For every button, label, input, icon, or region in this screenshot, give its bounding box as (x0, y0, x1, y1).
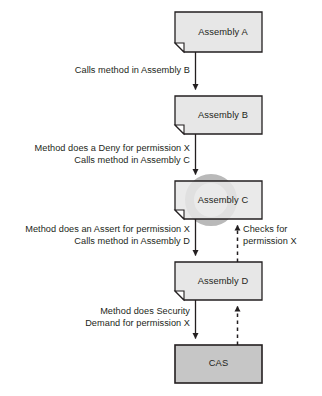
node-assembly-c (175, 181, 262, 219)
edge-label-d-to-c-check: Checks for permission X (243, 223, 321, 247)
edge-label-line: Method does a Deny for permission X (8, 142, 190, 154)
edge-label-line: permission X (243, 235, 321, 247)
edge-label-line: Calls method in Assembly C (8, 154, 190, 166)
edge-label-line: Method does Security (60, 305, 190, 317)
edge-label-line: Calls method in Assembly D (4, 235, 190, 247)
node-assembly-b (175, 96, 262, 134)
edge-label-line: Checks for (243, 223, 321, 235)
node-cas (175, 345, 262, 383)
edge-label-a-to-b: Calls method in Assembly B (10, 64, 190, 76)
node-assembly-d (175, 262, 262, 300)
edge-label-line: Calls method in Assembly B (10, 64, 190, 76)
node-assembly-a (175, 12, 262, 52)
security-stack-walk-diagram: Assembly A Assembly B Assembly C Assembl… (0, 0, 322, 396)
edge-label-d-to-cas: Method does Security Demand for permissi… (60, 305, 190, 329)
edge-label-line: Method does an Assert for permission X (4, 223, 190, 235)
diagram-canvas (0, 0, 322, 396)
edge-label-c-to-d: Method does an Assert for permission X C… (4, 223, 190, 247)
edge-label-b-to-c: Method does a Deny for permission X Call… (8, 142, 190, 166)
edge-label-line: Demand for permission X (60, 317, 190, 329)
